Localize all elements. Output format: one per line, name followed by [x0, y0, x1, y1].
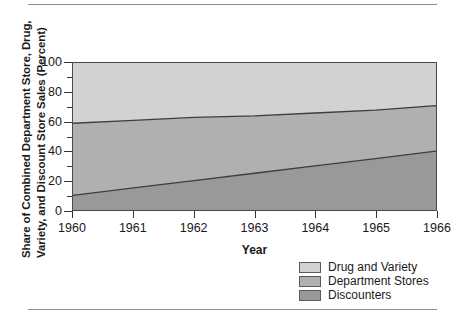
legend-item: Drug and Variety	[299, 261, 429, 274]
chart-legend: Drug and VarietyDepartment StoresDiscoun…	[299, 261, 429, 303]
y-axis-tick-label: 0	[24, 205, 62, 217]
legend-swatch-icon	[299, 290, 321, 301]
y-axis-tick-label: 100	[24, 56, 62, 68]
legend-swatch-icon	[299, 262, 321, 273]
x-axis-tick	[437, 211, 438, 218]
plot-area	[72, 62, 437, 211]
y-axis-tick-label: 20	[24, 175, 62, 187]
area-series-group	[73, 63, 436, 210]
legend-item-label: Discounters	[328, 289, 391, 302]
x-axis-tick-label: 1966	[407, 221, 465, 235]
x-axis-tick-label: 1963	[225, 221, 285, 235]
legend-item-label: Department Stores	[328, 275, 429, 288]
y-axis-tick-label: 40	[24, 145, 62, 157]
legend-item-label: Drug and Variety	[328, 261, 417, 274]
x-axis-tick	[376, 211, 377, 218]
x-axis-tick-label: 1960	[42, 221, 102, 235]
x-axis-tick-label: 1964	[285, 221, 345, 235]
x-axis-tick	[315, 211, 316, 218]
y-axis-tick-label: 80	[24, 86, 62, 98]
x-axis-tick	[194, 211, 195, 218]
stacked-area-chart	[73, 63, 436, 210]
x-axis-title: Year	[72, 243, 437, 257]
y-axis-tick-label: 60	[24, 116, 62, 128]
x-axis-tick	[133, 211, 134, 218]
legend-item: Department Stores	[299, 275, 429, 288]
x-axis-tick-label: 1962	[164, 221, 224, 235]
legend-item: Discounters	[299, 289, 429, 302]
x-axis-tick	[255, 211, 256, 218]
bottom-divider-rule	[28, 309, 437, 310]
x-axis-tick-label: 1965	[346, 221, 406, 235]
top-divider-rule	[28, 4, 437, 5]
x-axis-tick-label: 1961	[103, 221, 163, 235]
legend-swatch-icon	[299, 276, 321, 287]
x-axis-tick	[72, 211, 73, 218]
y-axis-tick-labels: 020406080100	[16, 0, 62, 321]
